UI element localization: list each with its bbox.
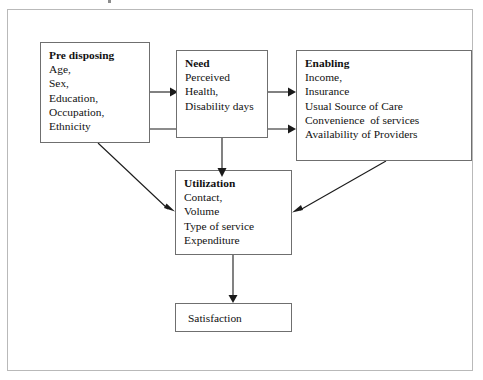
edge-need-to-utilization: [218, 138, 227, 177]
connector-layer-foreground: [0, 0, 483, 380]
diagram-canvas: Pre disposing Age, Sex, Education, Occup…: [0, 0, 483, 380]
